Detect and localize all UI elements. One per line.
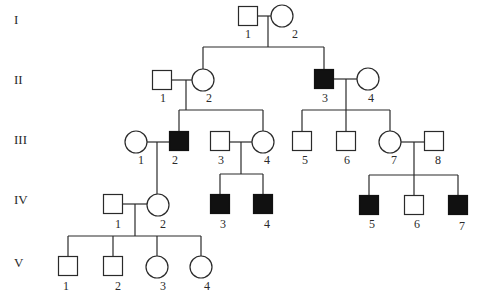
- individual-V-2: 2: [104, 257, 123, 294]
- individual-V-3: 3: [146, 256, 168, 293]
- individual-number: 2: [292, 27, 298, 41]
- individual-II-1: 1: [153, 71, 172, 106]
- female-circle-icon: [125, 131, 147, 153]
- individual-III-4: 4: [252, 131, 274, 167]
- individual-number: 5: [302, 153, 308, 167]
- individual-III-3: 3: [211, 132, 230, 168]
- male-square-icon: [239, 7, 258, 26]
- individual-II-4: 4: [357, 68, 379, 105]
- individual-number: 2: [115, 279, 121, 293]
- individual-I-2: 2: [271, 5, 298, 41]
- generation-label-II: II: [14, 72, 23, 87]
- individual-III-7: 7: [379, 131, 401, 167]
- individual-IV-6: 6: [405, 196, 424, 232]
- affected-male-square-icon: [315, 70, 334, 89]
- male-square-icon: [293, 132, 312, 151]
- individual-number: 8: [435, 153, 441, 167]
- individual-number: 1: [63, 279, 69, 293]
- individual-V-4: 4: [190, 256, 212, 293]
- individual-number: 3: [220, 217, 226, 231]
- male-square-icon: [337, 132, 356, 151]
- individual-number: 1: [115, 217, 121, 231]
- individual-I-1: 1: [239, 7, 258, 42]
- affected-male-square-icon: [360, 196, 379, 215]
- individual-number: 1: [245, 27, 251, 41]
- individual-number: 6: [344, 153, 350, 167]
- affected-male-square-icon: [254, 195, 273, 214]
- female-circle-icon: [146, 256, 168, 278]
- individual-number: 7: [391, 153, 397, 167]
- individual-number: 4: [204, 279, 210, 293]
- male-square-icon: [211, 132, 230, 151]
- individual-III-5: 5: [293, 132, 312, 168]
- individual-IV-1: 1: [104, 195, 123, 232]
- individual-IV-3: 3: [211, 195, 230, 232]
- affected-male-square-icon: [170, 132, 189, 151]
- individual-number: 3: [322, 91, 328, 105]
- individual-number: 2: [206, 91, 212, 105]
- affected-male-square-icon: [449, 196, 468, 215]
- female-circle-icon: [379, 131, 401, 153]
- generation-label-V: V: [14, 255, 24, 270]
- generation-label-IV: IV: [14, 192, 28, 207]
- male-square-icon: [104, 195, 123, 214]
- generation-label-III: III: [14, 132, 27, 147]
- individual-number: 3: [160, 279, 166, 293]
- generation-labels: IIIIIIIVV: [14, 12, 28, 270]
- individual-IV-5: 5: [360, 196, 379, 232]
- individual-number: 1: [138, 153, 144, 167]
- individual-number: 2: [160, 217, 166, 231]
- affected-male-square-icon: [211, 195, 230, 214]
- individual-number: 4: [264, 153, 270, 167]
- female-circle-icon: [147, 194, 169, 216]
- female-circle-icon: [271, 5, 293, 27]
- pedigree-diagram: IIIIIIIVV 1212341234567812345671234: [0, 0, 477, 299]
- individuals: 1212341234567812345671234: [59, 5, 468, 293]
- generation-label-I: I: [14, 12, 18, 27]
- individual-III-2: 2: [170, 132, 189, 168]
- individual-IV-4: 4: [254, 195, 273, 232]
- male-square-icon: [405, 196, 424, 215]
- individual-number: 3: [218, 153, 224, 167]
- individual-number: 2: [172, 153, 178, 167]
- individual-number: 4: [264, 217, 270, 231]
- male-square-icon: [425, 132, 444, 151]
- male-square-icon: [104, 257, 123, 276]
- male-square-icon: [153, 71, 172, 90]
- male-square-icon: [59, 257, 78, 276]
- female-circle-icon: [190, 256, 212, 278]
- individual-number: 5: [369, 217, 375, 231]
- individual-III-8: 8: [425, 132, 444, 168]
- individual-number: 6: [414, 217, 420, 231]
- female-circle-icon: [192, 69, 214, 91]
- individual-III-6: 6: [337, 132, 356, 168]
- individual-IV-2: 2: [147, 194, 169, 231]
- individual-IV-7: 7: [449, 196, 468, 234]
- individual-III-1: 1: [125, 131, 147, 167]
- female-circle-icon: [357, 68, 379, 90]
- individual-II-2: 2: [192, 69, 214, 105]
- individual-II-3: 3: [315, 70, 334, 106]
- individual-number: 1: [160, 91, 166, 105]
- individual-number: 7: [459, 219, 465, 233]
- individual-number: 4: [368, 91, 374, 105]
- female-circle-icon: [252, 131, 274, 153]
- individual-V-1: 1: [59, 257, 78, 294]
